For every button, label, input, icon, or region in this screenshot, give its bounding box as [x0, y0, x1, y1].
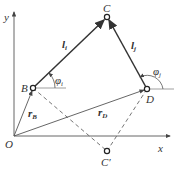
label-D: D [145, 93, 154, 105]
label-lj: lj [131, 39, 136, 53]
label-O: O [5, 138, 13, 150]
joint-B [30, 85, 35, 90]
dashed-D-Cprime [107, 89, 147, 151]
label-phi-j: φj [153, 65, 161, 79]
label-phi-i: φi [55, 74, 63, 88]
label-li: li [62, 38, 67, 52]
link-li [33, 20, 104, 88]
label-rD: rD [98, 106, 107, 120]
label-B: B [21, 82, 28, 94]
label-Cprime: C′ [101, 156, 111, 168]
label-x: x [157, 142, 163, 154]
joint-D [144, 86, 149, 91]
label-C: C [103, 2, 111, 14]
dashed-B-Cprime [33, 88, 107, 151]
label-y: y [3, 11, 9, 23]
label-rB: rB [28, 107, 37, 121]
joint-C [104, 14, 109, 19]
link-lj [109, 20, 147, 89]
joint-Cprime [104, 148, 109, 153]
linkage-diagram: y x O B C D C′ li lj rB rD φi φj [0, 0, 178, 175]
